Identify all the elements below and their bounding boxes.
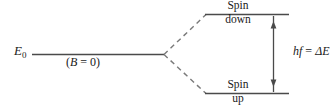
lower-level-label-line1: Spin <box>227 78 248 90</box>
lower-level-label: Spin up <box>213 78 263 104</box>
zero-field-value: = 0) <box>77 55 100 69</box>
split-guide-upper <box>164 15 206 55</box>
lower-level-label-line2: up <box>213 92 263 104</box>
spin-splitting-diagram: E0 (B = 0) Spin down Spin up hf = ΔE <box>0 0 333 110</box>
upper-level-label-line2: down <box>213 13 263 25</box>
photon-energy-symbol: hf <box>293 44 302 58</box>
ground-level-label: E0 <box>14 44 26 60</box>
upper-level-label-line1: Spin <box>227 0 248 11</box>
ground-level-symbol: E <box>14 43 22 58</box>
delta-energy-symbol: ΔE <box>315 44 329 58</box>
transition-energy-label: hf = ΔE <box>293 45 330 58</box>
zero-field-label: (B = 0) <box>66 56 100 69</box>
transition-arrowhead-down <box>271 80 277 88</box>
transition-arrowhead-up <box>271 21 277 29</box>
diagram-canvas <box>0 0 333 110</box>
equals-sign: = <box>302 44 315 58</box>
ground-level-subscript: 0 <box>22 50 27 60</box>
split-guide-lower <box>164 55 206 94</box>
upper-level-label: Spin down <box>213 0 263 25</box>
